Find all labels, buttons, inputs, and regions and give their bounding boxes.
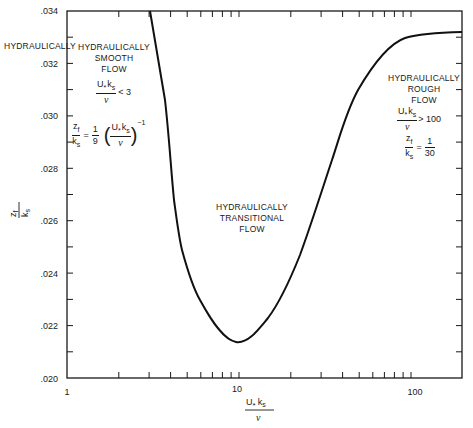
y-label-022: .022 [40, 321, 58, 331]
y-label-s: s [24, 209, 31, 213]
x-label-1: 1 [64, 387, 69, 397]
smooth-cond-nu: ν [96, 94, 116, 105]
x-tick-labels: 1 10 100 [64, 384, 422, 397]
svg-text:zf: zf [8, 211, 19, 218]
smooth-cond-op: < 3 [118, 87, 131, 97]
x-label-star: * [253, 401, 256, 410]
y-label-032: .032 [40, 59, 58, 69]
smooth-f-s: s [77, 141, 81, 148]
smooth-f-eq: = [83, 130, 88, 140]
smooth-cond-star: * [104, 84, 107, 91]
smooth-flow-text: HYDRAULICALLY SMOOTH FLOW [74, 42, 154, 75]
rough-condition: U*ks ν > 100 [397, 106, 441, 132]
rough-f-eq: = [416, 142, 421, 152]
smooth-cond-s: s [112, 84, 116, 91]
rough-title-3: FLOW [384, 95, 464, 106]
smooth-f-s2: s [126, 127, 130, 134]
rough-title-1: HYDRAULICALLY [384, 73, 464, 84]
smooth-f-f: f [78, 126, 80, 133]
smooth-f-nine: 9 [92, 136, 99, 147]
rough-cond-star: * [405, 111, 408, 118]
y-label-028: .028 [40, 164, 58, 174]
rough-flow-text: HYDRAULICALLY ROUGH FLOW [384, 73, 464, 106]
rough-title-2: ROUGH [384, 84, 464, 95]
rough-cond-s: s [413, 111, 417, 118]
transitional-flow-text: HYDRAULICALLY TRANSITIONAL FLOW [208, 202, 296, 235]
x-label-nu: ν [256, 412, 261, 423]
smooth-f-one: 1 [92, 124, 99, 136]
smooth-f-rparen: ) [131, 125, 138, 145]
rough-f-thirty: 30 [425, 148, 435, 159]
smooth-f-lparen: ( [104, 125, 111, 145]
transitional-title-1: HYDRAULICALLY [208, 202, 296, 213]
smooth-f-star: * [118, 127, 121, 134]
x-label-10: 10 [232, 384, 242, 394]
transitional-title-3: FLOW [208, 224, 296, 235]
y-axis-label: zf ks [8, 202, 31, 218]
rough-f-one: 1 [425, 136, 435, 148]
smooth-formula: zf ks = 1 9 ( U*ks ν ) −1 [72, 121, 145, 150]
x-axis-label: U*ks ν [245, 397, 274, 423]
smooth-title-1: HYDRAULICALLY [74, 42, 154, 53]
x-label-s: s [262, 401, 266, 408]
rough-cond-nu: ν [397, 121, 417, 132]
smooth-line1: HYDRAULICALLY [4, 41, 76, 51]
y-tick-labels: .034 .032 .030 .028 .026 .024 .022 .020 [40, 6, 58, 384]
smooth-condition: U*ks ν < 3 [96, 79, 131, 105]
svg-text:U*ks: U*ks [246, 397, 266, 410]
y-label-f: f [12, 211, 19, 213]
zf-ks-curve [150, 11, 462, 342]
rough-f-f: f [411, 138, 413, 145]
smooth-flow-annotation: HYDRAULICALLY [4, 41, 76, 51]
rough-formula: zf ks = 1 30 [405, 133, 435, 162]
y-label-030: .030 [40, 111, 58, 121]
y-label-020: .020 [40, 374, 58, 384]
y-label-034: .034 [40, 6, 58, 16]
smooth-f-nu: ν [110, 137, 130, 148]
rough-f-s: s [410, 153, 414, 160]
y-label-024: .024 [40, 269, 58, 279]
x-label-100: 100 [407, 387, 422, 397]
transitional-title-2: TRANSITIONAL [208, 213, 296, 224]
smooth-f-exp: −1 [137, 119, 145, 126]
svg-text:ks: ks [20, 209, 31, 218]
rough-cond-op: > 100 [418, 114, 441, 124]
y-label-026: .026 [40, 216, 58, 226]
smooth-title-3: FLOW [74, 64, 154, 75]
smooth-title-2: SMOOTH [74, 53, 154, 64]
